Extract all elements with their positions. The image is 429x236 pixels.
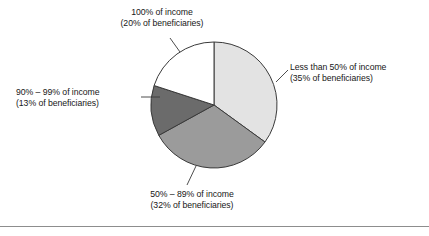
slice-label-90-to-99-line2: (13% of beneficiaries) (16, 98, 100, 109)
slice-label-100-percent-line2: (20% of beneficiaries) (92, 18, 232, 29)
pie-chart-figure: 100% of income (20% of beneficiaries) Le… (0, 0, 429, 236)
slice-label-less-than-50-line1: Less than 50% of income (290, 62, 386, 73)
slice-label-100-percent-line1: 100% of income (92, 7, 232, 18)
slice-label-100-percent: 100% of income (20% of beneficiaries) (92, 7, 232, 30)
slice-label-90-to-99: 90% – 99% of income (13% of beneficiarie… (16, 87, 100, 110)
footer-divider (0, 226, 429, 227)
slice-label-50-to-89-line2: (32% of beneficiaries) (118, 200, 266, 211)
slice-label-50-to-89: 50% – 89% of income (32% of beneficiarie… (118, 189, 266, 212)
slice-label-less-than-50-line2: (35% of beneficiaries) (290, 73, 386, 84)
slice-label-90-to-99-line1: 90% – 99% of income (16, 87, 100, 98)
pie-chart (150, 41, 278, 169)
slice-label-less-than-50: Less than 50% of income (35% of benefici… (290, 62, 386, 85)
slice-label-50-to-89-line1: 50% – 89% of income (118, 189, 266, 200)
pie-svg (150, 41, 278, 169)
